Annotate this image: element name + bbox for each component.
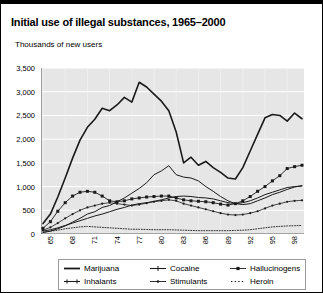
y-tick-label: 1,000 — [16, 182, 35, 191]
legend-label-cocaine: Cocaine — [170, 264, 199, 273]
legend-label-heroin: Heroin — [250, 277, 274, 286]
series-stimulants — [42, 199, 303, 232]
series-heroin — [43, 225, 302, 232]
x-tick-label: 65 — [46, 236, 55, 244]
plot-area — [41, 68, 304, 234]
x-tick-label: 89 — [224, 236, 233, 244]
legend-row-1: Marijuana Cocaine Hallucinogens — [63, 262, 301, 275]
legend-item-stimulants[interactable]: Stimulants — [149, 277, 229, 286]
legend-label-stimulants: Stimulants — [170, 277, 207, 286]
figure-panel: Initial use of illegal substances, 1965–… — [0, 0, 323, 293]
chart-legend: Marijuana Cocaine Hallucinogens Inhalant… — [58, 259, 306, 290]
legend-item-heroin[interactable]: Heroin — [229, 277, 274, 286]
y-tick-label: 3,500 — [16, 64, 35, 73]
legend-marker-heroin — [229, 277, 247, 286]
legend-marker-marijuana — [63, 264, 81, 273]
x-tick-label: 68 — [68, 236, 77, 244]
legend-label-marijuana: Marijuana — [84, 264, 119, 273]
chart-subtitle: Thousands of new users — [15, 40, 102, 49]
series-cocaine — [43, 166, 302, 233]
x-tick-label: 74 — [113, 236, 122, 244]
y-tick-label: 1,500 — [16, 158, 35, 167]
legend-marker-hallucinogens — [229, 264, 247, 273]
chart-title: Initial use of illegal substances, 1965–… — [11, 16, 225, 28]
series-marijuana — [43, 82, 302, 223]
y-tick-label: 0 — [31, 230, 35, 239]
legend-item-marijuana[interactable]: Marijuana — [63, 264, 149, 273]
x-tick-label: 92 — [246, 236, 255, 244]
y-tick-label: 3,000 — [16, 87, 35, 96]
legend-item-inhalants[interactable]: Inhalants — [63, 277, 149, 286]
series-inhalants — [43, 186, 302, 231]
legend-label-hallucinogens: Hallucinogens — [250, 264, 300, 273]
x-tick-label: 77 — [135, 236, 144, 244]
x-tick-label: 95 — [268, 236, 277, 244]
legend-row-2: Inhalants Stimulants Heroin — [63, 275, 301, 288]
x-tick-label: 83 — [179, 236, 188, 244]
x-tick-label: 71 — [90, 236, 99, 244]
legend-marker-inhalants — [63, 277, 81, 286]
x-tick-label: 98 — [290, 236, 299, 244]
y-tick-label: 2,500 — [16, 111, 35, 120]
y-tick-label: 500 — [22, 206, 35, 215]
legend-label-inhalants: Inhalants — [84, 277, 116, 286]
y-axis-labels: 05001,0001,5002,0002,5003,0003,500 — [1, 68, 38, 234]
legend-marker-cocaine — [149, 264, 167, 273]
x-tick-label: 86 — [201, 236, 210, 244]
y-tick-label: 2,000 — [16, 135, 35, 144]
chart-lines — [41, 68, 304, 234]
x-tick-label: 80 — [157, 236, 166, 244]
legend-item-cocaine[interactable]: Cocaine — [149, 264, 229, 273]
legend-marker-stimulants — [149, 277, 167, 286]
legend-item-hallucinogens[interactable]: Hallucinogens — [229, 264, 300, 273]
